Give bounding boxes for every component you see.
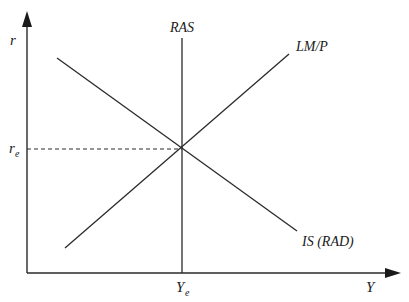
svg-text:e: e [185,287,190,298]
vertical-axis [22,11,32,273]
horizontal-axis [27,268,401,278]
lm-p-label: LM/P [295,39,328,54]
is-rad-label: IS (RAD) [301,234,354,250]
x-axis-arrow-icon [385,268,401,278]
is-rad-curve [57,58,297,231]
is-lm-diagram: r Y RAS LM/P IS (RAD) r e Y e [0,0,409,302]
y-axis-label: r [10,32,16,48]
y-axis-arrow-icon [22,11,32,27]
svg-text:e: e [15,148,20,159]
ras-label: RAS [169,20,194,35]
equilibrium-rate-label: r e [9,140,20,159]
lm-p-curve [65,54,289,248]
x-axis-label: Y [366,279,376,295]
equilibrium-output-label: Y e [176,279,190,298]
